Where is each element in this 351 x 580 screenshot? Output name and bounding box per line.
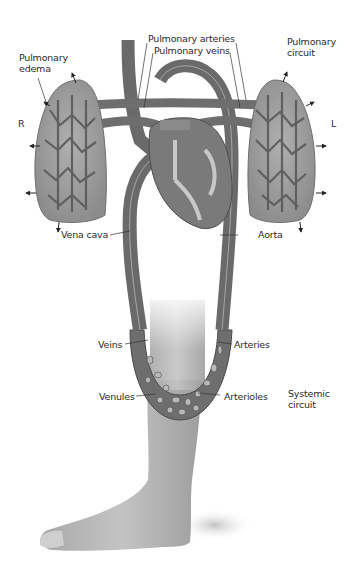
label-pulmonary-veins: Pulmonary veins bbox=[154, 45, 230, 56]
left-lung bbox=[248, 80, 315, 222]
circulation-diagram: Pulmonary arteries Pulmonary veins Pulmo… bbox=[0, 0, 351, 580]
heart bbox=[149, 118, 232, 229]
label-pulmonary-arteries: Pulmonary arteries bbox=[148, 33, 235, 44]
label-right: R bbox=[18, 118, 24, 129]
label-left: L bbox=[331, 118, 336, 129]
circulation-illustration bbox=[0, 0, 351, 580]
label-arteries: Arteries bbox=[234, 339, 270, 350]
superior-vena-cava bbox=[128, 40, 152, 150]
label-systemic-circuit: Systemic circuit bbox=[288, 388, 330, 410]
label-pulmonary-circuit: Pulmonary circuit bbox=[287, 36, 336, 58]
label-arterioles: Arterioles bbox=[224, 391, 268, 402]
label-aorta: Aorta bbox=[258, 229, 283, 240]
label-veins: Veins bbox=[98, 339, 122, 350]
label-vena-cava: Vena cava bbox=[61, 229, 108, 240]
label-venules: Venules bbox=[99, 391, 135, 402]
label-pulmonary-edema: Pulmonary edema bbox=[19, 52, 68, 74]
